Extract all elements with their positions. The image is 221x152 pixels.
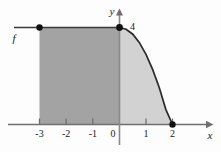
x-tick-label-2: 2: [170, 128, 175, 139]
x-tick-label--2: -2: [62, 128, 70, 139]
function-label: f: [12, 32, 17, 44]
point-x-intercept: [169, 121, 175, 127]
x-tick-label--1: -1: [89, 128, 97, 139]
x-tick-label--3: -3: [35, 128, 43, 139]
y-intercept-label: 4: [130, 21, 135, 32]
right-parabolic-region: [120, 28, 173, 125]
graph-canvas: f 4 y x -3 -2 -1 0 1 2: [0, 0, 221, 152]
x-axis-arrow-icon: [206, 121, 214, 128]
point-y-intercept: [116, 24, 123, 31]
left-rectangle-region: [40, 28, 120, 125]
y-axis-label: y: [109, 5, 115, 17]
point-left-endpoint: [36, 24, 42, 30]
x-tick-label-0: 0: [111, 128, 116, 139]
y-axis-arrow-icon: [116, 9, 123, 16]
x-axis-label: x: [207, 129, 213, 141]
x-tick-label-1: 1: [144, 128, 149, 139]
graph-figure: f 4 y x -3 -2 -1 0 1 2: [0, 0, 221, 152]
